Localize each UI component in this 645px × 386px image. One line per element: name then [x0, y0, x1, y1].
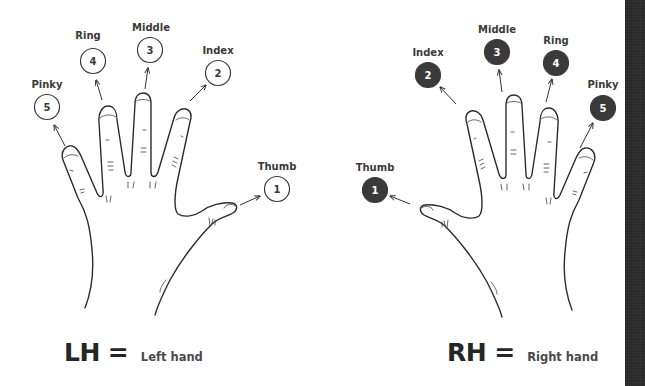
finger-number: 2 — [425, 70, 432, 81]
finger-label: Middle — [132, 22, 170, 33]
legend-left-hand: LH = Left hand — [64, 338, 203, 367]
legend-description: Right hand — [527, 350, 598, 364]
finger-label: Ring — [75, 30, 100, 41]
finger-number: 3 — [147, 45, 154, 56]
finger-number: 3 — [494, 47, 501, 58]
legend-equals: = — [108, 338, 129, 367]
legend-equals: = — [494, 338, 515, 367]
left-finger-middle: Middle 3 — [132, 22, 170, 63]
left-hand-arrows — [54, 68, 260, 205]
finger-label: Ring — [543, 35, 568, 46]
finger-number: 4 — [90, 56, 97, 67]
finger-label: Pinky — [587, 79, 619, 90]
finger-number: 5 — [600, 103, 607, 114]
right-finger-middle: Middle 3 — [478, 24, 516, 65]
left-finger-index: Index 2 — [202, 45, 234, 86]
finger-label: Thumb — [258, 161, 297, 172]
left-hand-drawing — [62, 93, 236, 315]
legend-abbr: RH — [447, 338, 486, 367]
legend-description: Left hand — [141, 350, 203, 364]
left-finger-pinky: Pinky 5 — [31, 79, 63, 120]
right-finger-pinky: Pinky 5 — [587, 79, 619, 121]
finger-numbering-diagram: Pinky 5 Ring 4 Middle 3 Index 2 Thumb 1 — [0, 0, 645, 386]
right-finger-thumb: Thumb 1 — [356, 162, 395, 203]
right-finger-index: Index 2 — [412, 47, 444, 88]
legend-abbr: LH — [64, 338, 100, 367]
finger-label: Pinky — [31, 79, 63, 90]
finger-label: Middle — [478, 24, 516, 35]
finger-label: Index — [202, 45, 234, 56]
finger-number: 5 — [44, 102, 51, 113]
left-finger-thumb: Thumb 1 — [258, 161, 297, 202]
legend-right-hand: RH = Right hand — [447, 338, 598, 367]
left-finger-ring: Ring 4 — [75, 30, 105, 74]
finger-label: Index — [412, 47, 444, 58]
finger-number: 1 — [372, 185, 379, 196]
right-hand-drawing — [420, 95, 594, 317]
right-finger-ring: Ring 4 — [543, 35, 568, 76]
finger-number: 2 — [215, 68, 222, 79]
right-hand-arrows — [390, 70, 593, 204]
finger-label: Thumb — [356, 162, 395, 173]
finger-number: 1 — [274, 184, 281, 195]
finger-number: 4 — [553, 58, 560, 69]
dark-side-strip — [625, 0, 645, 386]
